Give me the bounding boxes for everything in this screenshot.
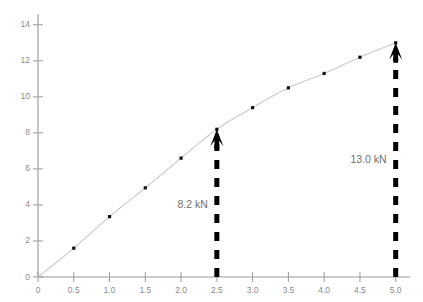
- annotation-8-2-kn-label: 8.2 kN: [0, 199, 208, 210]
- axes-group: [38, 14, 410, 277]
- chart-plot-svg: [0, 0, 423, 302]
- y-axis-tick-label: 6: [8, 164, 30, 173]
- data-point-marker: [287, 86, 290, 89]
- y-axis-tick-label: 0: [8, 273, 30, 282]
- data-point-marker: [358, 56, 361, 59]
- y-axis-tick-label: 12: [8, 56, 30, 65]
- y-axis-tick-label: 2: [8, 236, 30, 245]
- data-point-markers: [72, 41, 397, 250]
- x-axis-tick-label: 3.5: [273, 286, 303, 295]
- annotation-arrow-head: [389, 43, 402, 63]
- x-axis-tick-label: 5.0: [381, 286, 411, 295]
- data-point-marker: [72, 247, 75, 250]
- x-axis-tick-label: 1.5: [130, 286, 160, 295]
- x-axis-tick-label: 0: [23, 286, 53, 295]
- x-axis-tick-label: 1.0: [95, 286, 125, 295]
- x-axis-tick-label: 2.5: [202, 286, 232, 295]
- x-axis-tick-label: 2.0: [166, 286, 196, 295]
- data-point-marker: [251, 106, 254, 109]
- x-axis-tick-label: 3.0: [238, 286, 268, 295]
- y-axis-tick-label: 14: [8, 20, 30, 29]
- x-axis-tick-label: 0.5: [59, 286, 89, 295]
- chart-container: 02468101214 00.51.01.52.02.53.03.54.04.5…: [0, 0, 423, 302]
- x-axis-tick-label: 4.5: [345, 286, 375, 295]
- y-axis-tick-label: 8: [8, 128, 30, 137]
- data-point-marker: [144, 186, 147, 189]
- y-axis-tick-label: 10: [8, 92, 30, 101]
- annotation-13-0-kn-label: 13.0 kN: [0, 154, 387, 165]
- data-point-marker: [323, 72, 326, 75]
- data-point-marker: [108, 215, 111, 218]
- x-axis-tick-label: 4.0: [309, 286, 339, 295]
